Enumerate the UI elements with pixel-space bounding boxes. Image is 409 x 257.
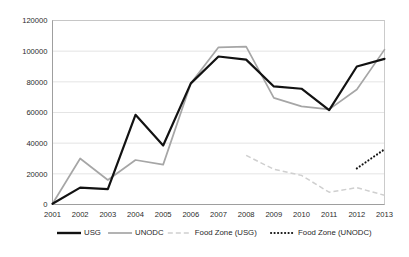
series-line-food-zone-usg <box>246 155 384 195</box>
legend-label: UNODC <box>135 228 164 237</box>
data-series-group <box>53 47 385 204</box>
x-tick-label: 2013 <box>376 210 393 219</box>
y-tick-label: 60000 <box>26 108 47 117</box>
x-tick-label: 2007 <box>210 210 227 219</box>
x-tick-label: 2001 <box>44 210 61 219</box>
x-axis-tick-labels: 2001200220032004200520062007200820092010… <box>44 210 393 219</box>
series-line-usg <box>53 57 385 204</box>
x-tick-label: 2002 <box>72 210 89 219</box>
x-tick-label: 2012 <box>348 210 365 219</box>
series-line-unodc <box>53 47 385 204</box>
legend-item-unodc[interactable]: UNODC <box>108 228 164 237</box>
x-tick-label: 2005 <box>155 210 172 219</box>
legend-item-food-zone-usg[interactable]: Food Zone (USG) <box>168 228 257 237</box>
legend-label: Food Zone (UNODC) <box>298 228 372 237</box>
y-tick-label: 0 <box>43 200 47 209</box>
y-tick-label: 120000 <box>22 16 47 25</box>
y-tick-label: 80000 <box>26 78 47 87</box>
y-tick-label: 40000 <box>26 139 47 148</box>
legend-label: Food Zone (USG) <box>195 228 257 237</box>
legend-item-usg[interactable]: USG <box>57 228 101 237</box>
y-tick-label: 100000 <box>22 47 47 56</box>
line-chart: 020000400006000080000100000120000 200120… <box>0 0 409 257</box>
y-axis-tick-labels: 020000400006000080000100000120000 <box>22 16 47 209</box>
series-line-food-zone-unodc <box>357 149 385 168</box>
x-tick-label: 2006 <box>182 210 199 219</box>
x-tick-label: 2004 <box>127 210 144 219</box>
legend-item-food-zone-unodc[interactable]: Food Zone (UNODC) <box>271 228 372 237</box>
chart-container: 020000400006000080000100000120000 200120… <box>0 0 409 257</box>
y-tick-label: 20000 <box>26 170 47 179</box>
x-tick-label: 2010 <box>293 210 310 219</box>
x-tick-label: 2009 <box>265 210 282 219</box>
x-tick-label: 2003 <box>99 210 116 219</box>
x-tick-label: 2008 <box>238 210 255 219</box>
x-tick-label: 2011 <box>321 210 337 219</box>
chart-legend: USGUNODCFood Zone (USG)Food Zone (UNODC) <box>57 228 372 237</box>
legend-label: USG <box>84 228 101 237</box>
